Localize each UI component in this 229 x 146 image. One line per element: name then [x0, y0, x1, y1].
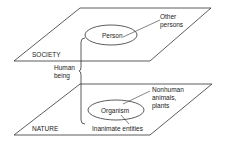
- being-label: being: [54, 72, 70, 80]
- human-label: Human: [54, 64, 75, 71]
- organism-label: Organism: [101, 107, 129, 115]
- nonhuman-label-3: plants: [152, 102, 170, 110]
- nonhuman-pointer: [123, 91, 150, 104]
- nature-label: NATURE: [32, 125, 59, 132]
- nonhuman-label-1: Nonhuman: [152, 86, 184, 93]
- other-persons-label-2: persons: [160, 21, 184, 29]
- inanimate-label: Inanimate entities: [92, 125, 144, 132]
- diagram-canvas: Person Other persons SOCIETY Human being…: [0, 0, 229, 146]
- person-label: Person: [102, 32, 123, 39]
- nonhuman-label-2: animals,: [152, 94, 176, 101]
- human-being-connector: [79, 38, 85, 124]
- society-nature-diagram: Person Other persons SOCIETY Human being…: [0, 0, 229, 146]
- society-label: SOCIETY: [32, 51, 61, 58]
- other-persons-pointer: [123, 20, 160, 37]
- other-persons-label-1: Other: [160, 13, 177, 20]
